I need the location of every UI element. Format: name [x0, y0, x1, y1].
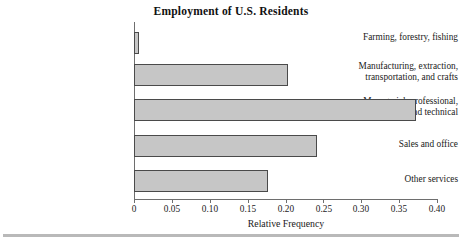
x-tick-mark	[361, 199, 362, 203]
bar-other-services	[134, 170, 268, 192]
bar-manufacturing	[134, 64, 288, 86]
x-tick-mark	[323, 199, 324, 203]
x-tick-mark	[210, 199, 211, 203]
x-axis-title: Relative Frequency	[134, 218, 438, 229]
footer-divider	[3, 234, 459, 237]
x-tick-mark	[437, 199, 438, 203]
x-tick-label-5: 0.25	[316, 204, 332, 214]
x-tick-label-6: 0.30	[353, 204, 369, 214]
x-tick-label-8: 0.40	[429, 204, 445, 214]
bar-managerial	[134, 99, 416, 121]
x-tick-label-3: 0.15	[240, 204, 256, 214]
x-tick-mark	[399, 199, 400, 203]
x-tick-mark	[134, 199, 135, 203]
page-title: Employment of U.S. Residents	[0, 5, 462, 17]
x-tick-label-1: 0.05	[164, 204, 180, 214]
x-tick-label-4: 0.20	[278, 204, 294, 214]
plot-area	[134, 22, 437, 199]
x-tick-label-7: 0.35	[391, 204, 407, 214]
bar-farming	[134, 32, 139, 54]
x-tick-mark	[172, 199, 173, 203]
x-tick-label-2: 0.10	[202, 204, 218, 214]
bar-sales	[134, 135, 317, 157]
x-tick-mark	[248, 199, 249, 203]
x-tick-mark	[286, 199, 287, 203]
chart-figure: Employment of U.S. Residents Farming, fo…	[0, 0, 462, 244]
x-tick-label-0: 0	[132, 204, 137, 214]
